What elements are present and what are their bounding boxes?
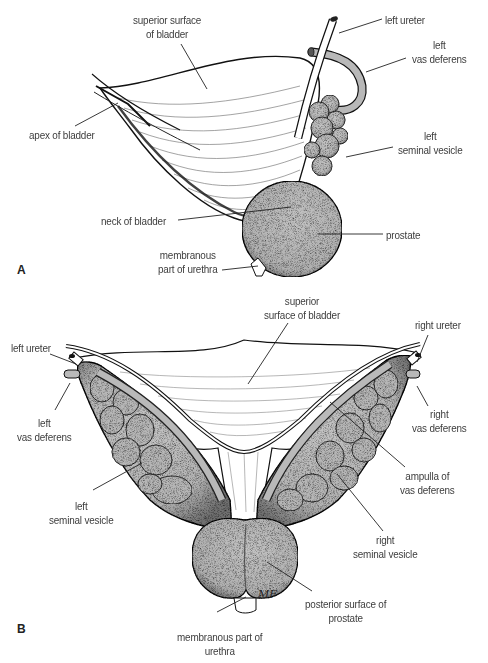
label-b-posterior-surface-prostate: posterior surface of prostate xyxy=(305,597,386,625)
right-vas-b xyxy=(406,370,420,378)
left-vas-b xyxy=(64,370,80,378)
artist-signature: MF xyxy=(257,588,277,601)
label-a-apex-of-bladder: apex of bladder xyxy=(29,128,95,142)
label-a-prostate: prostate xyxy=(386,228,420,242)
label-b-right-vas-deferens: right vas deferens xyxy=(412,407,467,435)
label-a-superior-surface: superior surface of bladder xyxy=(133,13,201,41)
label-b-right-ureter: right ureter xyxy=(415,318,461,332)
label-a-left-seminal-vesicle: left seminal vesicle xyxy=(398,129,462,157)
label-a-membranous-urethra: membranous part of urethra xyxy=(158,248,218,276)
label-a-left-ureter: left ureter xyxy=(385,13,425,27)
label-b-left-seminal-vesicle: left seminal vesicle xyxy=(49,499,113,527)
label-b-superior-surface: superior surface of bladder xyxy=(264,294,340,322)
urethra-stub-b xyxy=(234,598,256,613)
label-a-neck-of-bladder: neck of bladder xyxy=(101,214,166,228)
label-b-right-seminal-vesicle: right seminal vesicle xyxy=(353,533,417,561)
label-b-ampulla: ampulla of vas deferens xyxy=(400,469,455,497)
label-b-membranous-urethra: membranous part of urethra xyxy=(177,630,262,658)
label-a-left-vas-deferens: left vas deferens xyxy=(412,38,467,66)
panel-letter-b: B xyxy=(17,622,26,636)
label-b-left-vas-deferens: left vas deferens xyxy=(17,416,72,444)
panel-a-drawing xyxy=(92,15,362,277)
panel-letter-a: A xyxy=(17,263,26,277)
label-b-left-ureter: left ureter xyxy=(11,341,51,355)
